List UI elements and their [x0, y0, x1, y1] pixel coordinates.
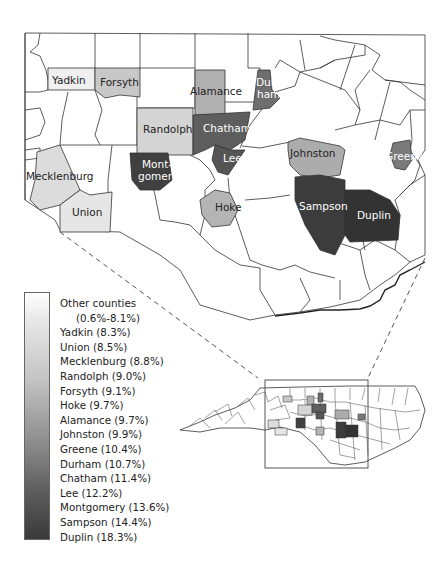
legend-item: Union (8.5%) — [60, 340, 240, 355]
label-hoke: Hoke — [215, 201, 242, 213]
legend-item: Alamance (9.7%) — [60, 413, 240, 428]
legend-item: Johnston (9.9%) — [60, 427, 240, 442]
label-alamance: Alamance — [190, 85, 242, 97]
label-durham-1: Dur- — [256, 76, 278, 88]
label-lee: Lee — [223, 152, 242, 164]
label-durham-2: ham — [257, 88, 280, 100]
label-forsyth: Forsyth — [100, 76, 139, 88]
label-montgomery-2: gomery — [138, 170, 178, 182]
label-sampson: Sampson — [299, 200, 348, 212]
label-greene: Greene — [385, 150, 423, 162]
label-yadkin: Yadkin — [51, 74, 86, 86]
legend-item: Chatham (11.4%) — [60, 471, 240, 486]
legend-item: Greene (10.4%) — [60, 442, 240, 457]
legend-item: Other counties — [60, 296, 240, 311]
legend-items: Other counties (0.6%-8.1%) Yadkin (8.3%)… — [60, 296, 240, 544]
legend-item: Forsyth (9.1%) — [60, 384, 240, 399]
legend-item: Sampson (14.4%) — [60, 515, 240, 530]
legend-item: Durham (10.7%) — [60, 457, 240, 472]
label-chatham: Chatham — [203, 122, 251, 134]
label-johnston: Johnston — [289, 147, 336, 159]
inset-map: Yadkin Forsyth Alamance Dur- ham Randolp… — [25, 33, 425, 320]
legend-item: Hoke (9.7%) — [60, 398, 240, 413]
legend-item: Randolph (9.0%) — [60, 369, 240, 384]
label-montgomery-1: Mont- — [142, 158, 172, 170]
legend-item: Mecklenburg (8.8%) — [60, 354, 240, 369]
label-union: Union — [72, 206, 102, 218]
legend-item: Lee (12.2%) — [60, 486, 240, 501]
label-randolph: Randolph — [143, 123, 192, 135]
legend-item: (0.6%-8.1%) — [60, 311, 240, 326]
legend-item: Yadkin (8.3%) — [60, 325, 240, 340]
legend-item: Montgomery (13.6%) — [60, 500, 240, 515]
label-duplin: Duplin — [357, 209, 391, 221]
legend-gradient-bar — [24, 292, 50, 540]
label-mecklenburg: Mecklenburg — [26, 170, 94, 182]
legend-item: Duplin (18.3%) — [60, 530, 240, 545]
